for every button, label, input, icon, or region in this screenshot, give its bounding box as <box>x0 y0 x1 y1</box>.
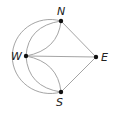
label-s: S <box>56 96 63 109</box>
label-n: N <box>57 5 65 18</box>
label-e: E <box>101 51 108 64</box>
graph-svg: N W E S <box>0 0 114 114</box>
label-w: W <box>11 50 23 63</box>
node-w <box>24 54 28 58</box>
graph-diagram: N W E S <box>0 0 114 114</box>
edge-n-e <box>61 21 96 57</box>
node-n <box>59 19 63 23</box>
node-e <box>94 55 98 59</box>
node-s <box>59 90 63 94</box>
edge-w-e <box>26 56 96 57</box>
edge-s-e <box>61 57 96 92</box>
